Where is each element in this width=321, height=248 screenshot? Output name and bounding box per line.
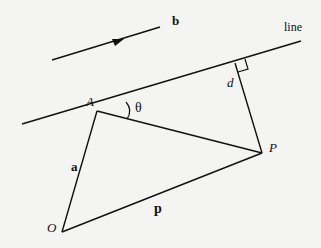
line-through-A <box>22 41 301 124</box>
vector-p-line <box>62 153 262 232</box>
label-d: d <box>227 76 234 89</box>
vector-distance-diagram: b line d A θ P a p O <box>0 0 321 248</box>
vector-a-line <box>62 111 97 232</box>
vector-b-line <box>52 27 160 60</box>
label-a: a <box>71 160 78 173</box>
label-A: A <box>86 95 94 108</box>
segment-AP <box>97 111 262 153</box>
label-O: O <box>47 221 56 234</box>
label-b: b <box>172 14 179 27</box>
vector-b-arrowhead-icon <box>112 39 124 46</box>
label-p: p <box>154 202 162 216</box>
perpendicular-d <box>235 63 262 153</box>
label-line: line <box>284 21 302 33</box>
label-theta: θ <box>135 101 142 115</box>
label-P: P <box>269 141 277 154</box>
angle-theta-arc-icon <box>126 102 130 119</box>
right-angle-marker-icon <box>238 59 248 72</box>
